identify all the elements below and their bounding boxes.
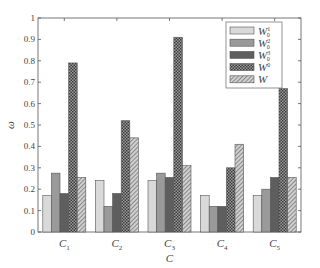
legend-label: W10 xyxy=(258,25,270,38)
x-tick-label: C4 xyxy=(217,237,228,252)
bar xyxy=(218,206,227,232)
y-tick-label: 0.1 xyxy=(24,206,35,216)
bar xyxy=(104,206,113,232)
bar xyxy=(270,177,279,232)
bar xyxy=(226,168,235,232)
bar xyxy=(182,166,191,232)
legend-label: W20 xyxy=(258,37,270,50)
y-tick-label: 0.8 xyxy=(24,56,36,66)
legend-swatch xyxy=(230,76,254,83)
x-tick-label: C2 xyxy=(111,237,122,252)
y-tick-label: 0.9 xyxy=(24,34,36,44)
legend-swatch xyxy=(230,64,254,71)
bar xyxy=(113,193,122,232)
y-axis-label: ω xyxy=(4,121,16,129)
y-tick-label: 0.2 xyxy=(24,184,35,194)
x-tick-label: C3 xyxy=(164,237,175,252)
y-tick-label: 0.5 xyxy=(24,120,36,130)
y-tick-label: 0.7 xyxy=(24,77,36,87)
x-tick-label: C5 xyxy=(269,237,280,252)
bar xyxy=(279,89,288,232)
y-tick-label: 1 xyxy=(31,13,36,23)
legend-swatch xyxy=(230,27,254,34)
bar xyxy=(253,196,262,232)
bar xyxy=(262,189,271,232)
y-tick-label: 0.6 xyxy=(24,99,36,109)
bar xyxy=(165,177,174,232)
legend-label: W xyxy=(258,73,268,85)
bar xyxy=(288,177,297,232)
bar xyxy=(235,144,244,232)
bar xyxy=(60,193,69,232)
bar xyxy=(51,173,60,232)
x-tick-label: C1 xyxy=(59,237,70,252)
bar xyxy=(43,196,52,232)
bar xyxy=(148,181,157,232)
legend: W10W20W30W0W xyxy=(226,22,282,88)
y-tick-label: 0.3 xyxy=(24,163,36,173)
bar xyxy=(77,177,86,232)
bar xyxy=(121,121,130,232)
legend-swatch xyxy=(230,51,254,58)
bar xyxy=(174,37,183,232)
bar xyxy=(201,196,210,232)
bar xyxy=(130,138,139,232)
bar xyxy=(157,173,166,232)
x-axis-label: C xyxy=(166,252,174,264)
bar xyxy=(209,206,218,232)
bar xyxy=(69,63,78,232)
legend-label: W30 xyxy=(258,49,270,62)
y-tick-label: 0 xyxy=(31,227,36,237)
bar xyxy=(95,181,104,232)
legend-swatch xyxy=(230,39,254,46)
y-tick-label: 0.4 xyxy=(24,141,36,151)
bar-chart: 00.10.20.30.40.50.60.70.80.91ωC1C2C3C4C5… xyxy=(0,0,320,268)
